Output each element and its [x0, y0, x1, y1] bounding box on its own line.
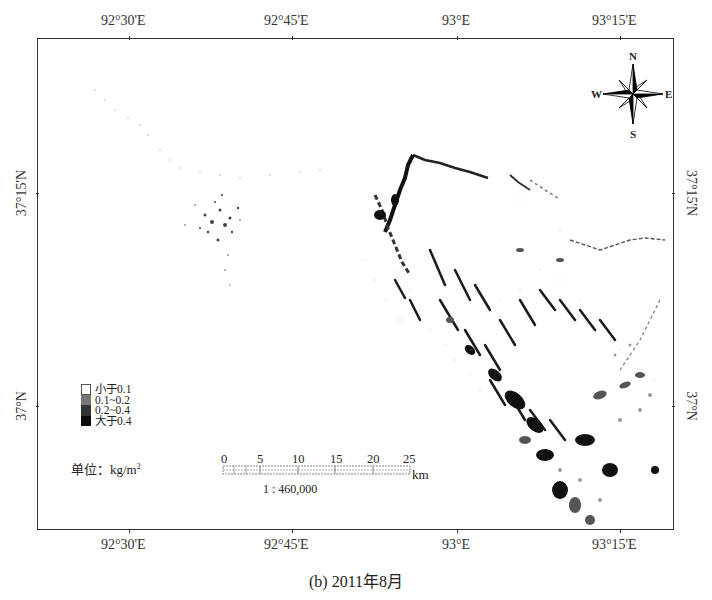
left-tick-label: 37°15'N — [14, 163, 30, 223]
legend-item: 0.2~0.4 — [81, 405, 131, 416]
unit-superscript: 2 — [137, 462, 141, 471]
left-tick-label: 37°N — [14, 376, 30, 436]
legend-label: 大于0.4 — [95, 416, 131, 427]
top-tick-label: 93°15'E — [592, 13, 637, 29]
compass-w: W — [591, 88, 602, 100]
tick-mark — [129, 36, 130, 40]
unit-text: 单位：kg/m — [71, 462, 137, 477]
tick-mark — [672, 406, 675, 407]
scale-ratio: 1 : 460,000 — [263, 482, 317, 497]
legend-label: 小于0.1 — [95, 384, 131, 395]
tick-mark — [36, 406, 39, 407]
figure-caption: (b) 2011年8月 — [0, 568, 712, 592]
tick-mark — [620, 36, 621, 40]
right-tick-label: 37°N — [683, 376, 699, 436]
legend-swatch — [81, 395, 91, 406]
tick-mark — [292, 529, 293, 533]
compass-e: E — [665, 88, 672, 100]
bottom-tick-label: 93°E — [442, 537, 470, 553]
compass-s: S — [630, 128, 636, 140]
right-tick-label: 37°15'N — [683, 163, 699, 223]
tick-mark — [457, 36, 458, 40]
legend-label: 0.2~0.4 — [95, 405, 130, 416]
legend-swatch — [81, 405, 91, 416]
north-arrow: N S E W — [598, 52, 668, 142]
legend-item: 大于0.4 — [81, 416, 131, 427]
scale-bar-graphic — [222, 465, 412, 477]
tick-mark — [292, 36, 293, 40]
legend-item: 小于0.1 — [81, 384, 131, 395]
compass-n: N — [629, 50, 637, 62]
top-tick-label: 92°45'E — [264, 13, 309, 29]
top-tick-label: 92°30'E — [101, 13, 146, 29]
unit-label: 单位：kg/m2 — [71, 459, 141, 478]
tick-mark — [457, 529, 458, 533]
top-tick-label: 93°E — [442, 13, 470, 29]
bottom-tick-label: 92°30'E — [101, 537, 146, 553]
tick-mark — [129, 529, 130, 533]
tick-mark — [672, 193, 675, 194]
legend: 小于0.1 0.1~0.2 0.2~0.4 大于0.4 — [81, 384, 131, 426]
tick-mark — [620, 529, 621, 533]
bottom-tick-label: 93°15'E — [592, 537, 637, 553]
bottom-tick-label: 92°45'E — [264, 537, 309, 553]
legend-swatch — [81, 416, 91, 427]
tick-mark — [36, 193, 39, 194]
legend-swatch — [81, 384, 91, 395]
scale-unit: km — [412, 467, 429, 483]
